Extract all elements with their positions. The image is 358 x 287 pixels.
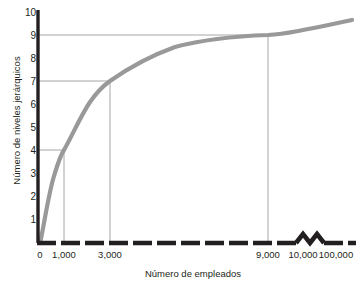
x-axis-label: Número de empleados	[118, 268, 268, 279]
chart-plot-area	[0, 0, 358, 287]
axis-break-zigzag-icon	[296, 234, 324, 243]
x-tick-1000: 1,000	[52, 250, 76, 260]
x-tick-100000: 100,000	[319, 250, 353, 260]
x-tick-9000: 9,000	[256, 250, 280, 260]
x-tick-10000: 10,000	[288, 250, 317, 260]
x-tick-0: 0	[37, 250, 42, 260]
data-curve-hierarchy-levels	[40, 20, 352, 243]
x-tick-3000: 3,000	[98, 250, 122, 260]
chart-container: Número de niveles jerárquicos 10 9 8 7 6…	[0, 0, 358, 287]
